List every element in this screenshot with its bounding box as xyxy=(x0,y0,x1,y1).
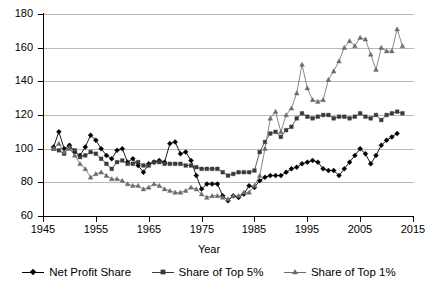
data-point xyxy=(115,148,120,153)
data-point xyxy=(99,157,103,161)
data-point xyxy=(226,174,230,178)
data-point xyxy=(331,69,336,73)
data-point xyxy=(294,91,299,95)
data-point xyxy=(178,151,183,156)
data-point xyxy=(284,170,289,175)
data-point xyxy=(263,146,268,150)
data-point xyxy=(89,150,93,154)
series-net-profit-share xyxy=(51,129,400,203)
data-point xyxy=(321,97,326,101)
data-point xyxy=(395,131,400,136)
data-point xyxy=(194,173,199,178)
data-point xyxy=(146,185,151,189)
data-point xyxy=(300,62,305,66)
data-point xyxy=(364,115,368,119)
data-point xyxy=(368,161,373,166)
data-point xyxy=(216,167,220,171)
x-axis-title: Year xyxy=(0,243,418,255)
data-point xyxy=(401,111,405,115)
data-point xyxy=(337,59,342,63)
data-point xyxy=(109,156,114,161)
series-share-of-top-5 xyxy=(52,110,405,178)
data-point xyxy=(242,170,246,174)
data-point xyxy=(237,170,241,174)
legend-item-share-of-top-5[interactable]: Share of Top 5% xyxy=(152,266,264,278)
data-point xyxy=(253,169,257,173)
data-point xyxy=(300,111,304,115)
data-point xyxy=(173,162,177,166)
legend-label: Net Profit Share xyxy=(49,266,131,278)
data-point xyxy=(294,165,299,170)
data-point xyxy=(274,130,278,134)
data-point xyxy=(136,160,140,164)
data-point xyxy=(73,149,77,153)
data-point xyxy=(316,115,320,119)
data-point xyxy=(337,115,341,119)
data-point xyxy=(173,139,178,144)
legend-label: Share of Top 1% xyxy=(311,266,396,278)
series-line xyxy=(54,132,398,201)
legend-item-net-profit-share[interactable]: Net Profit Share xyxy=(22,266,131,278)
data-point xyxy=(289,166,294,171)
data-point xyxy=(347,39,352,43)
data-point xyxy=(162,187,167,191)
data-point xyxy=(358,111,362,115)
data-point xyxy=(189,185,194,189)
data-point xyxy=(110,167,114,171)
data-point xyxy=(374,67,379,71)
data-point xyxy=(390,111,394,115)
data-point xyxy=(310,158,315,163)
data-point xyxy=(94,152,98,156)
data-point xyxy=(83,154,87,158)
data-point xyxy=(120,159,124,163)
data-point xyxy=(369,117,373,121)
data-point xyxy=(326,77,331,81)
data-point xyxy=(131,162,135,166)
data-point xyxy=(290,125,294,129)
square-marker-icon xyxy=(152,267,174,277)
data-point xyxy=(184,164,188,168)
data-point xyxy=(247,170,251,174)
legend-marker xyxy=(27,266,39,278)
diamond-marker-icon xyxy=(22,267,44,277)
data-point xyxy=(215,182,220,187)
data-point xyxy=(368,52,373,56)
data-point xyxy=(120,146,125,151)
data-point xyxy=(83,144,88,149)
data-point xyxy=(305,86,310,90)
data-point xyxy=(385,113,389,117)
data-point xyxy=(395,110,399,114)
data-point xyxy=(326,168,331,173)
data-point xyxy=(221,170,225,174)
triangle-marker-icon xyxy=(284,267,306,277)
legend-marker xyxy=(289,266,301,278)
data-point xyxy=(374,113,378,117)
data-point xyxy=(152,160,156,164)
data-point xyxy=(194,165,198,169)
data-point xyxy=(105,162,109,166)
data-point xyxy=(231,172,235,176)
series-line xyxy=(54,112,403,176)
data-point xyxy=(327,113,331,117)
data-point xyxy=(57,149,61,153)
data-point xyxy=(284,128,288,132)
legend-item-share-of-top-1[interactable]: Share of Top 1% xyxy=(284,266,396,278)
data-point xyxy=(147,164,151,168)
data-point xyxy=(400,44,405,48)
data-point xyxy=(56,129,61,134)
data-point xyxy=(167,141,172,146)
data-point xyxy=(258,150,262,154)
data-point xyxy=(273,173,278,178)
data-point xyxy=(379,45,384,49)
legend-label: Share of Top 5% xyxy=(179,266,264,278)
data-point xyxy=(278,173,283,178)
data-point xyxy=(200,167,204,171)
legend-marker xyxy=(157,266,169,278)
data-point xyxy=(115,160,119,164)
chart-legend: Net Profit ShareShare of Top 5%Share of … xyxy=(0,262,418,282)
data-point xyxy=(88,175,93,179)
data-point xyxy=(163,162,167,166)
data-point xyxy=(321,113,325,117)
data-point xyxy=(279,135,283,139)
